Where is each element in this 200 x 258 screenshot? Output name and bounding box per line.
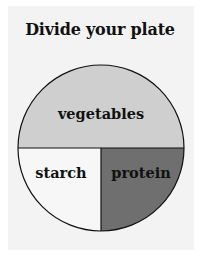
protein-label: protein [111,164,171,181]
vegetables-label: vegetables [57,105,144,122]
protein-section [101,148,184,231]
starch-label: starch [35,164,87,181]
starch-section [18,148,101,231]
plate-diagram: vegetables starch protein [0,0,200,258]
